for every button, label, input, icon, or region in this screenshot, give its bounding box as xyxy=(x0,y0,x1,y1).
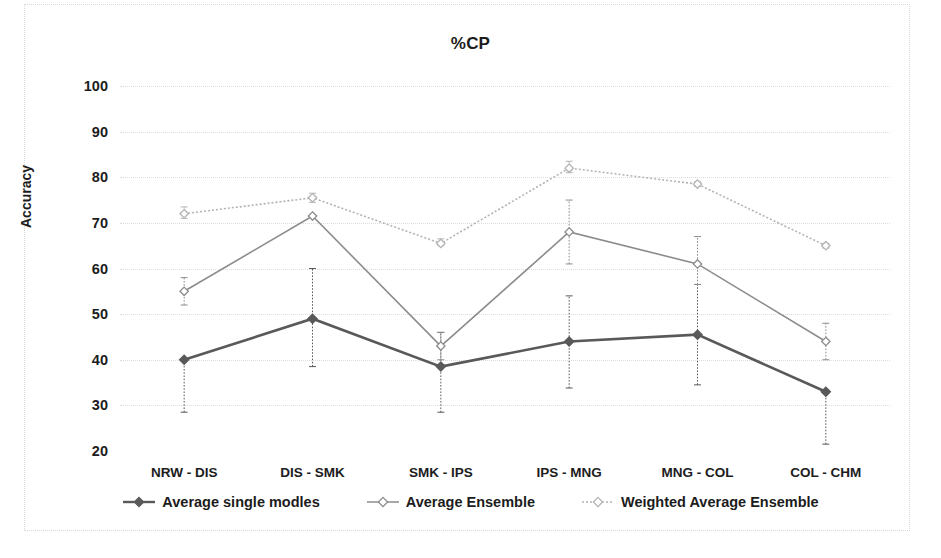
legend-label: Average Ensemble xyxy=(406,494,535,510)
series-line xyxy=(184,319,826,392)
legend-item-2[interactable]: Average Ensemble xyxy=(366,494,535,510)
data-point-marker xyxy=(822,337,830,345)
x-axis-tick-label: NRW - DIS xyxy=(151,465,218,480)
data-point-marker xyxy=(565,164,573,172)
data-point-marker xyxy=(693,180,701,188)
data-point-marker xyxy=(180,210,188,218)
data-point-marker xyxy=(180,287,188,295)
plot-area: 2030405060708090100 NRW - DISDIS - SMKSM… xyxy=(120,86,890,451)
series-line xyxy=(184,216,826,346)
y-axis-tick-label: 90 xyxy=(92,124,108,140)
data-point-marker xyxy=(180,355,189,364)
data-point-marker xyxy=(821,387,830,396)
y-axis-tick-label: 50 xyxy=(92,306,108,322)
data-point-marker xyxy=(436,362,445,371)
data-point-marker xyxy=(565,337,574,346)
x-axis-tick-label: IPS - MNG xyxy=(537,465,602,480)
series-layer xyxy=(120,86,890,451)
legend-item-1[interactable]: Average single modles xyxy=(122,494,319,510)
x-axis-tick-label: COL - CHM xyxy=(790,465,861,480)
series-1 xyxy=(180,269,831,445)
y-axis-tick-label: 70 xyxy=(92,215,108,231)
legend-label: Average single modles xyxy=(162,494,319,510)
data-point-marker xyxy=(693,330,702,339)
data-point-marker xyxy=(437,239,445,247)
x-axis-tick-label: MNG - COL xyxy=(662,465,734,480)
y-axis-title: Accuracy xyxy=(18,165,34,228)
legend-marker-icon xyxy=(366,495,400,509)
chart-container: %CP Accuracy 2030405060708090100 NRW - D… xyxy=(0,0,941,558)
x-axis-tick-label: SMK - IPS xyxy=(409,465,473,480)
legend-label: Weighted Average Ensemble xyxy=(621,494,819,510)
y-axis-tick-label: 20 xyxy=(92,443,108,459)
data-point-marker xyxy=(308,314,317,323)
data-point-marker xyxy=(822,241,830,249)
y-axis-tick-label: 40 xyxy=(92,352,108,368)
legend-marker-icon xyxy=(581,495,615,509)
legend-item-3[interactable]: Weighted Average Ensemble xyxy=(581,494,819,510)
data-point-marker xyxy=(308,194,316,202)
y-axis-tick-label: 80 xyxy=(92,169,108,185)
legend-marker-icon xyxy=(122,495,156,509)
x-axis-tick-label: DIS - SMK xyxy=(280,465,345,480)
y-axis-tick-label: 30 xyxy=(92,397,108,413)
chart-title: %CP xyxy=(0,34,941,54)
y-axis-tick-label: 60 xyxy=(92,261,108,277)
chart-legend: Average single modlesAverage EnsembleWei… xyxy=(0,494,941,510)
series-2 xyxy=(180,200,830,360)
data-point-marker xyxy=(693,260,701,268)
y-axis-tick-label: 100 xyxy=(84,78,108,94)
